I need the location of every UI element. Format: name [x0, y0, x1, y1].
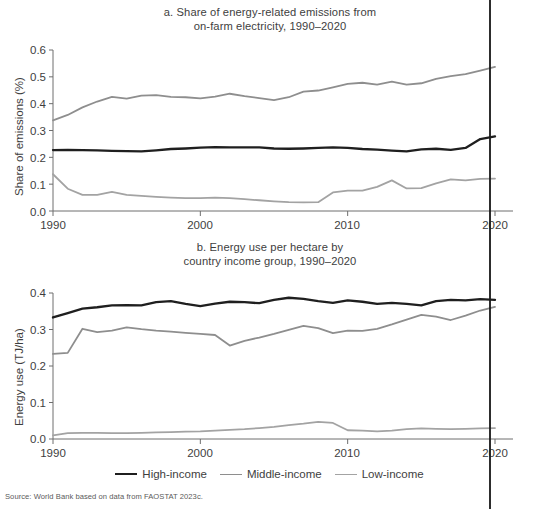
- panel-b-plot-area: [0, 238, 539, 468]
- panel-a-plot-area: [0, 0, 539, 238]
- series-line-high-income: [53, 298, 495, 318]
- panel-a-share-of-emissions: a. Share of energy-related emissions fro…: [0, 0, 539, 238]
- series-line-high-income: [53, 136, 495, 151]
- legend-label-low-income: Low-income: [362, 468, 424, 480]
- chart-legend: High-income Middle-income Low-income: [0, 468, 539, 480]
- legend-swatch-low-income: [335, 474, 357, 475]
- legend-label-middle-income: Middle-income: [247, 468, 322, 480]
- panel-b-y-axis-label: Energy use (TJ/ha): [13, 328, 25, 426]
- legend-label-high-income: High-income: [142, 468, 207, 480]
- legend-swatch-high-income: [115, 473, 137, 475]
- legend-swatch-middle-income: [220, 474, 242, 475]
- page-scan-artifact-line: [489, 0, 491, 509]
- panel-b-ytick-0.3: 0.3: [16, 324, 46, 336]
- panel-b-ytick-0.4: 0.4: [16, 287, 46, 299]
- panel-b-xtick-1990: 1990: [31, 447, 75, 459]
- panel-b-ytick-0.0: 0.0: [16, 433, 46, 445]
- legend-item-low-income: Low-income: [335, 468, 424, 480]
- series-line-middle-income: [53, 307, 495, 354]
- panel-b-xtick-2010: 2010: [325, 447, 369, 459]
- panel-b-energy-use: b. Energy use per hectare by country inc…: [0, 238, 539, 468]
- panel-b-ytick-0.2: 0.2: [16, 360, 46, 372]
- figure-energy-emissions: a. Share of energy-related emissions fro…: [0, 0, 539, 509]
- series-line-middle-income: [53, 67, 495, 120]
- legend-item-middle-income: Middle-income: [220, 468, 322, 480]
- panel-b-xtick-2000: 2000: [178, 447, 222, 459]
- legend-item-high-income: High-income: [115, 468, 207, 480]
- series-line-low-income: [53, 422, 495, 436]
- source-note: Source: World Bank based on data from FA…: [5, 492, 203, 501]
- panel-b-ytick-0.1: 0.1: [16, 397, 46, 409]
- panel-b-xtick-2020: 2020: [473, 447, 517, 459]
- series-line-low-income: [53, 174, 495, 202]
